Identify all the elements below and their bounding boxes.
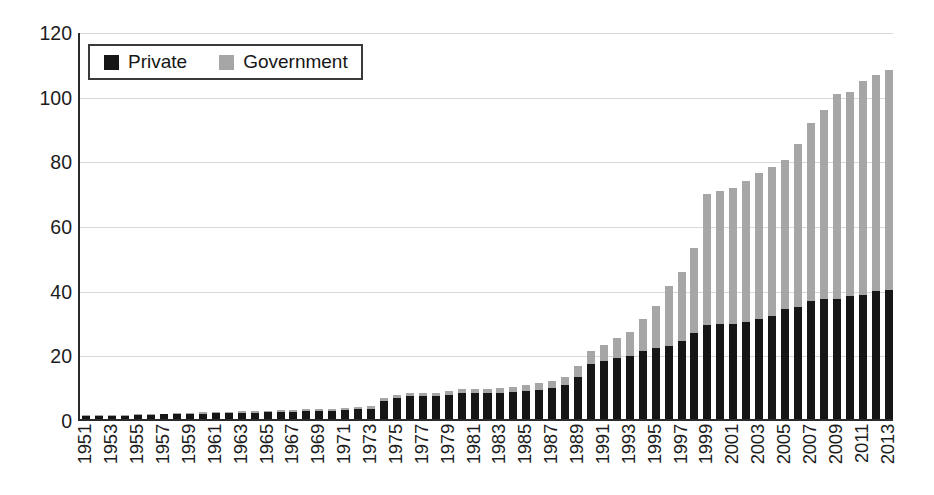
legend-item-private[interactable]: Private: [104, 51, 187, 73]
bar-column[interactable]: [82, 31, 90, 419]
gray-square-swatch: [219, 55, 234, 70]
bar-column[interactable]: [794, 31, 802, 419]
bar-segment-private: [445, 395, 453, 419]
bar-column[interactable]: [587, 31, 595, 419]
bar-column[interactable]: [108, 31, 116, 419]
bar-segment-government: [665, 286, 673, 346]
bar-segment-government: [755, 173, 763, 319]
bar-column[interactable]: [613, 31, 621, 419]
bar-segment-private: [186, 414, 194, 419]
bar-column[interactable]: [846, 31, 854, 419]
bar-segment-government: [859, 81, 867, 294]
bar-column[interactable]: [380, 31, 388, 419]
bar-column[interactable]: [251, 31, 259, 419]
bar-column[interactable]: [742, 31, 750, 419]
x-axis-tick-label: 1991: [592, 424, 614, 464]
bar-column[interactable]: [95, 31, 103, 419]
bar-column[interactable]: [652, 31, 660, 419]
bar-column[interactable]: [458, 31, 466, 419]
bar-column[interactable]: [755, 31, 763, 419]
bar-column[interactable]: [574, 31, 582, 419]
bar-column[interactable]: [859, 31, 867, 419]
bar-column[interactable]: [703, 31, 711, 419]
bar-column[interactable]: [354, 31, 362, 419]
bar-column[interactable]: [600, 31, 608, 419]
y-axis-labels: 020406080100120: [0, 0, 72, 495]
bar-segment-government: [729, 188, 737, 324]
bar-column[interactable]: [406, 31, 414, 419]
y-axis-tick-label: 120: [0, 22, 72, 45]
bar-column[interactable]: [173, 31, 181, 419]
bar-column[interactable]: [277, 31, 285, 419]
chart-legend: Private Government: [88, 44, 363, 80]
y-axis-tick-label: 80: [0, 151, 72, 174]
bar-column[interactable]: [729, 31, 737, 419]
bar-column[interactable]: [872, 31, 880, 419]
bar-segment-government: [587, 351, 595, 364]
bar-segment-private: [522, 391, 530, 419]
bar-column[interactable]: [445, 31, 453, 419]
bar-segment-private: [458, 393, 466, 419]
bar-column[interactable]: [199, 31, 207, 419]
bar-column[interactable]: [496, 31, 504, 419]
x-axis-tick-label: 2005: [773, 424, 795, 464]
bar-segment-private: [626, 356, 634, 419]
bar-column[interactable]: [716, 31, 724, 419]
bar-column[interactable]: [561, 31, 569, 419]
bar-column[interactable]: [639, 31, 647, 419]
bar-column[interactable]: [367, 31, 375, 419]
bar-column[interactable]: [833, 31, 841, 419]
bar-segment-private: [885, 290, 893, 419]
bar-column[interactable]: [160, 31, 168, 419]
bar-column[interactable]: [509, 31, 517, 419]
bar-segment-private: [289, 412, 297, 419]
bar-column[interactable]: [665, 31, 673, 419]
bar-column[interactable]: [820, 31, 828, 419]
bar-column[interactable]: [548, 31, 556, 419]
x-axis-tick-label: 2009: [825, 424, 847, 464]
bar-column[interactable]: [289, 31, 297, 419]
bar-column[interactable]: [471, 31, 479, 419]
bar-column[interactable]: [626, 31, 634, 419]
bar-column[interactable]: [302, 31, 310, 419]
bar-column[interactable]: [264, 31, 272, 419]
bar-column[interactable]: [121, 31, 129, 419]
bar-column[interactable]: [522, 31, 530, 419]
bar-column[interactable]: [432, 31, 440, 419]
bar-segment-government: [548, 381, 556, 388]
bar-segment-private: [95, 416, 103, 419]
bar-column[interactable]: [535, 31, 543, 419]
bar-segment-private: [380, 401, 388, 419]
bar-column[interactable]: [328, 31, 336, 419]
bar-column[interactable]: [134, 31, 142, 419]
bar-segment-private: [652, 348, 660, 419]
bar-segment-government: [885, 70, 893, 290]
bar-column[interactable]: [807, 31, 815, 419]
bar-column[interactable]: [225, 31, 233, 419]
bar-column[interactable]: [393, 31, 401, 419]
bar-segment-private: [820, 299, 828, 419]
bar-segment-private: [768, 316, 776, 419]
bar-column[interactable]: [315, 31, 323, 419]
x-axis-tick-label: 1975: [385, 424, 407, 464]
bar-column[interactable]: [341, 31, 349, 419]
bar-column[interactable]: [768, 31, 776, 419]
bar-column[interactable]: [483, 31, 491, 419]
x-axis-tick-label: 1971: [333, 424, 355, 464]
bar-column[interactable]: [690, 31, 698, 419]
x-axis-tick-label: 1979: [437, 424, 459, 464]
bar-segment-private: [406, 396, 414, 419]
bar-segment-government: [742, 181, 750, 322]
bar-column[interactable]: [147, 31, 155, 419]
legend-item-government[interactable]: Government: [219, 51, 348, 73]
bar-column[interactable]: [781, 31, 789, 419]
bar-segment-private: [703, 325, 711, 419]
bar-column[interactable]: [238, 31, 246, 419]
bar-column[interactable]: [186, 31, 194, 419]
bar-segment-private: [859, 295, 867, 419]
bar-segment-private: [587, 364, 595, 419]
bar-column[interactable]: [678, 31, 686, 419]
bar-column[interactable]: [212, 31, 220, 419]
bar-column[interactable]: [885, 31, 893, 419]
bar-column[interactable]: [419, 31, 427, 419]
